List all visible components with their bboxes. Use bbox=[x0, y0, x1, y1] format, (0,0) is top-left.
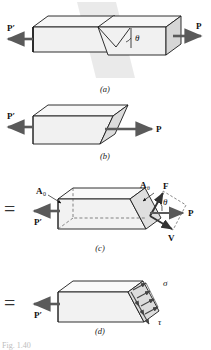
angle-arc-c bbox=[160, 202, 162, 211]
bar-b-front-face bbox=[33, 116, 113, 144]
caption-panel-c: (c) bbox=[88, 243, 112, 253]
label-p-a: P bbox=[196, 21, 202, 31]
label-a-theta: A bbox=[140, 180, 147, 190]
panel-d-diagram: = P′ σ τ bbox=[0, 268, 211, 330]
label-F: F bbox=[163, 181, 169, 191]
label-a-theta-subscript: θ bbox=[147, 185, 150, 191]
label-p-prime-c: P′ bbox=[34, 217, 42, 227]
label-a0-subscript: 0 bbox=[43, 191, 46, 197]
panel-c-diagram: = A 0 A θ P′ F V P θ bbox=[0, 172, 211, 244]
bar-b-top-face bbox=[33, 105, 128, 116]
label-p-prime-d: P′ bbox=[34, 310, 42, 320]
caption-panel-d: (d) bbox=[88, 326, 112, 336]
panel-b-diagram: P′ P bbox=[0, 99, 211, 151]
label-p-prime-b: P′ bbox=[7, 111, 15, 121]
equals-sign-d: = bbox=[4, 292, 15, 314]
label-theta-a: θ bbox=[135, 33, 140, 43]
label-a0: A bbox=[36, 186, 43, 196]
label-p-c: P bbox=[188, 208, 194, 218]
label-p-b: P bbox=[156, 124, 162, 134]
label-sigma: σ bbox=[163, 278, 168, 288]
caption-panel-b: (b) bbox=[93, 151, 117, 161]
label-V: V bbox=[168, 233, 175, 243]
panel-a-diagram: P′ P θ bbox=[0, 0, 211, 84]
label-tau: τ bbox=[158, 317, 162, 327]
caption-panel-a: (a) bbox=[93, 84, 117, 94]
equals-sign-c: = bbox=[4, 198, 15, 220]
figure-number-label: Fig. 1.40 bbox=[2, 341, 31, 350]
left-bar-front-face bbox=[33, 27, 110, 52]
label-theta-c: θ bbox=[163, 197, 168, 207]
label-p-prime-a: P′ bbox=[7, 23, 15, 33]
right-bar-front-face bbox=[98, 27, 166, 55]
